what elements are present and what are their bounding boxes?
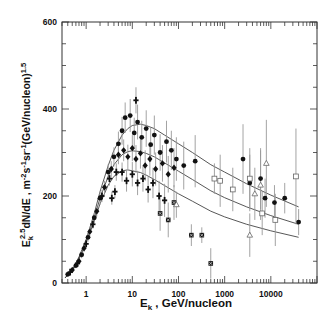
y-tick-label: 0: [52, 278, 57, 288]
data-markers: [65, 97, 301, 277]
y-tick-label: 400: [43, 104, 57, 114]
y-tick-label: 600: [43, 17, 57, 27]
x-tick-label: 10000: [259, 289, 283, 299]
x-tick-label: 1: [84, 289, 89, 299]
spectrum-chart: 1101001000100000200400600 Ek , GeV/nucle…: [0, 0, 334, 335]
svg-text:Ek2.5dN/dE , m-2s-1sr-1(GeV/nu: Ek2.5dN/dE , m-2s-1sr-1(GeV/nucleon)1.5: [18, 63, 35, 247]
axes: [62, 22, 317, 283]
y-axis-title: Ek2.5dN/dE , m-2s-1sr-1(GeV/nucleon)1.5: [18, 63, 35, 247]
x-tick-label: 10: [128, 289, 138, 299]
y-tick-label: 200: [43, 191, 57, 201]
x-axis-title: Ek , GeV/nucleon: [140, 297, 232, 312]
plot-frame: [62, 22, 317, 283]
model-curve-lower: [65, 170, 299, 278]
